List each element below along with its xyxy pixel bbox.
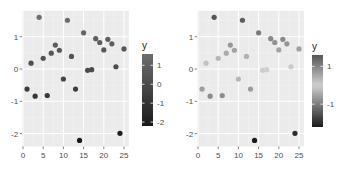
data-point <box>28 61 33 66</box>
left-plot: 0510152025-2-101y10-1-2 <box>0 0 175 175</box>
x-tick-label: 25 <box>295 151 304 160</box>
data-point <box>240 18 245 23</box>
data-point <box>220 93 225 98</box>
color-legend: y1-1 <box>312 41 335 127</box>
data-point <box>73 86 78 91</box>
data-point <box>101 47 106 52</box>
y-tick-label: 1 <box>14 33 19 42</box>
left-scatter-chart: 0510152025-2-101y10-1-2 <box>0 0 175 175</box>
right-scatter-chart: 0510152025-2-101y1-1 <box>175 0 350 175</box>
y-tick-label: 1 <box>189 33 194 42</box>
data-point <box>81 30 86 35</box>
y-tick-label: 0 <box>14 65 19 74</box>
data-point <box>117 131 122 136</box>
data-point <box>244 54 249 59</box>
data-point <box>236 76 241 81</box>
data-point <box>228 42 233 47</box>
data-point <box>65 18 70 23</box>
legend-tick-label: -2 <box>157 118 165 127</box>
data-point <box>284 41 289 46</box>
data-point <box>77 138 82 143</box>
data-point <box>296 46 301 51</box>
x-tick-label: 10 <box>59 151 68 160</box>
panel-background <box>22 11 129 147</box>
data-point <box>45 93 50 98</box>
data-point <box>224 51 229 56</box>
data-point <box>232 48 237 53</box>
panel-background <box>197 11 304 147</box>
data-point <box>256 30 261 35</box>
data-point <box>105 37 110 42</box>
x-tick-label: 15 <box>79 151 88 160</box>
data-point <box>37 15 42 20</box>
colorbar <box>142 54 153 126</box>
x-tick-label: 0 <box>196 151 201 160</box>
y-tick-label: -1 <box>186 97 194 106</box>
data-point <box>272 40 277 45</box>
x-tick-label: 25 <box>120 151 129 160</box>
legend-tick-label: 1 <box>157 61 162 70</box>
color-legend: y10-1-2 <box>142 40 165 127</box>
data-point <box>292 131 297 136</box>
data-point <box>61 76 66 81</box>
data-point <box>208 94 213 99</box>
y-tick-label: 0 <box>189 65 194 74</box>
y-tick-label: -2 <box>186 130 194 139</box>
colorbar <box>312 55 323 127</box>
data-point <box>268 36 273 41</box>
data-point <box>216 56 221 61</box>
data-point <box>276 47 281 52</box>
data-point <box>33 94 38 99</box>
data-point <box>93 36 98 41</box>
legend-tick-label: -1 <box>327 100 335 109</box>
legend-title: y <box>312 41 317 52</box>
right-plot: 0510152025-2-101y1-1 <box>175 0 350 175</box>
legend-tick-label: -1 <box>157 99 165 108</box>
legend-tick-label: 0 <box>157 80 162 89</box>
data-point <box>53 42 58 47</box>
data-point <box>203 61 208 66</box>
data-point <box>49 51 54 56</box>
x-tick-label: 10 <box>234 151 243 160</box>
data-point <box>264 67 269 72</box>
data-point <box>252 138 257 143</box>
data-point <box>69 54 74 59</box>
plot-panel: 0510152025-2-101 <box>186 11 304 160</box>
data-point <box>109 41 114 46</box>
plot-panel: 0510152025-2-101 <box>11 11 129 160</box>
legend-tick-label: 1 <box>327 62 332 71</box>
data-point <box>113 64 118 69</box>
data-point <box>24 86 29 91</box>
data-point <box>89 67 94 72</box>
x-tick-label: 20 <box>99 151 108 160</box>
x-tick-label: 20 <box>274 151 283 160</box>
data-point <box>280 37 285 42</box>
x-tick-label: 0 <box>21 151 26 160</box>
y-tick-label: -1 <box>11 97 19 106</box>
data-point <box>212 15 217 20</box>
x-tick-label: 15 <box>254 151 263 160</box>
legend-title: y <box>142 40 147 51</box>
data-point <box>248 86 253 91</box>
data-point <box>288 64 293 69</box>
data-point <box>121 46 126 51</box>
data-point <box>97 40 102 45</box>
data-point <box>57 48 62 53</box>
y-tick-label: -2 <box>11 130 19 139</box>
x-tick-label: 5 <box>41 151 46 160</box>
data-point <box>199 86 204 91</box>
x-tick-label: 5 <box>216 151 221 160</box>
data-point <box>41 56 46 61</box>
